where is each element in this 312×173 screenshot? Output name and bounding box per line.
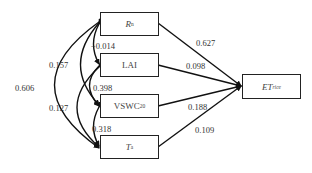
node-et-label: ET: [262, 82, 273, 92]
node-ta: Ta: [100, 135, 159, 159]
node-et-sub: rice: [272, 84, 281, 90]
node-vswc: VSWC20: [100, 94, 159, 118]
coef-rn-et: 0.627: [196, 38, 215, 48]
corr-vswc-ta: 0.318: [92, 124, 111, 134]
node-lai-label: LAI: [122, 60, 137, 70]
corr-rn-lai: −0.014: [91, 41, 115, 51]
coef-ta-et: 0.109: [195, 125, 214, 135]
corr-lai-vswc: 0.398: [93, 83, 112, 93]
node-vswc-label: VSWC: [114, 101, 140, 111]
node-vswc-sub: 20: [140, 103, 146, 109]
coef-vswc-et: 0.188: [188, 102, 207, 112]
corr-rn-vswc: 0.157: [49, 60, 68, 70]
node-rn: Rn: [100, 12, 159, 36]
node-ta-sub: a: [131, 144, 133, 150]
corr-rn-ta: 0.606: [15, 83, 34, 93]
node-rn-sub: n: [131, 21, 134, 27]
node-et: ETrice: [242, 74, 301, 99]
corr-lai-ta: 0.127: [49, 103, 68, 113]
coef-lai-et: 0.098: [186, 61, 205, 71]
node-lai: LAI: [100, 53, 159, 77]
